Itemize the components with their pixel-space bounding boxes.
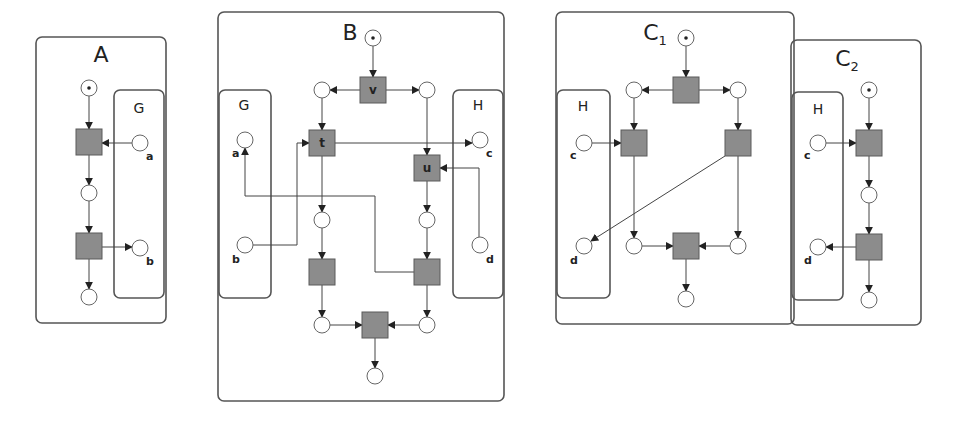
box-title: G xyxy=(239,97,250,113)
module-box-a: A xyxy=(36,37,166,323)
place-c2-d: d xyxy=(804,239,826,267)
place-circle-icon xyxy=(861,292,877,308)
module-box-c2: C2 xyxy=(791,40,921,325)
transition-b-t5 xyxy=(362,312,388,338)
module-box-c1-h: H xyxy=(557,90,610,298)
place-b-p3 xyxy=(314,212,330,228)
transition-square-icon xyxy=(673,233,699,259)
transition-c1-t2 xyxy=(725,130,751,156)
place-c2-p1 xyxy=(861,187,877,203)
place-label: c xyxy=(570,149,577,162)
arc-b-7 xyxy=(440,168,479,237)
place-label: d xyxy=(486,253,494,266)
arc-b-8 xyxy=(253,143,309,245)
place-b-d: d xyxy=(472,237,494,266)
module-box-c2-h: H xyxy=(792,92,843,300)
place-a-b: b xyxy=(132,240,154,268)
place-circle-icon xyxy=(367,368,383,384)
place-circle-icon xyxy=(810,135,826,151)
place-circle-icon xyxy=(419,82,435,98)
transition-square-icon xyxy=(414,259,440,285)
transition-square-icon xyxy=(76,233,102,259)
transition-c2-t1 xyxy=(856,130,882,156)
place-circle-icon xyxy=(730,82,746,98)
box-outline xyxy=(557,90,610,298)
place-circle-icon xyxy=(576,238,592,254)
place-circle-icon xyxy=(626,238,642,254)
place-c2-p2 xyxy=(861,292,877,308)
place-c1-p5 xyxy=(678,291,694,307)
box-title: H xyxy=(578,98,589,114)
transition-square-icon xyxy=(362,312,388,338)
place-circle-icon xyxy=(576,135,592,151)
token-dot-icon xyxy=(867,88,871,92)
transition-square-icon xyxy=(673,77,699,103)
box-outline xyxy=(114,90,164,298)
arcs xyxy=(89,46,869,368)
place-c1-p4 xyxy=(730,238,746,254)
box-title: B xyxy=(342,20,357,45)
box-title: G xyxy=(134,100,145,116)
module-box-b: B xyxy=(218,12,504,401)
token-dot-icon xyxy=(87,86,91,90)
box-title: H xyxy=(813,101,824,117)
token-dot-icon xyxy=(371,36,375,40)
transition-b-t4 xyxy=(414,259,440,285)
transition-b-u: u xyxy=(414,155,440,181)
place-c2-p0 xyxy=(861,82,877,98)
box-title: C2 xyxy=(835,46,859,74)
arc-c1-7 xyxy=(591,156,725,241)
box-outline xyxy=(791,40,921,325)
place-circle-icon xyxy=(314,317,330,333)
place-b-p6 xyxy=(419,317,435,333)
place-c1-pr xyxy=(730,82,746,98)
transition-square-icon xyxy=(309,259,335,285)
place-label: b xyxy=(232,253,240,266)
place-circle-icon xyxy=(237,237,253,253)
box-title: H xyxy=(473,97,484,113)
place-label: d xyxy=(570,254,578,267)
transition-label: t xyxy=(319,136,325,150)
place-circle-icon xyxy=(861,187,877,203)
transition-b-t: t xyxy=(309,130,335,156)
transition-square-icon xyxy=(621,130,647,156)
place-c1-pl xyxy=(626,82,642,98)
place-circle-icon xyxy=(626,82,642,98)
transition-square-icon xyxy=(76,129,102,155)
place-b-a: a xyxy=(232,132,253,160)
transition-c1-t0 xyxy=(673,77,699,103)
transition-square-icon xyxy=(856,234,882,260)
box-outline xyxy=(453,90,503,298)
place-circle-icon xyxy=(419,212,435,228)
transition-c1-t3 xyxy=(673,233,699,259)
place-circle-icon xyxy=(730,238,746,254)
place-b-c: c xyxy=(472,132,493,160)
place-circle-icon xyxy=(237,132,253,148)
petri-net-diagram: AGBGHC1HC2H abacbdcdcd vtu xyxy=(0,0,956,425)
transition-square-icon xyxy=(856,130,882,156)
transition-c2-t2 xyxy=(856,234,882,260)
place-b-b: b xyxy=(232,237,253,266)
transition-c1-t1 xyxy=(621,130,647,156)
place-circle-icon xyxy=(472,237,488,253)
place-a-p1 xyxy=(81,185,97,201)
module-box-b-h: H xyxy=(453,90,503,298)
place-a-p0 xyxy=(81,80,97,96)
box-outline xyxy=(36,37,166,323)
place-c1-d: d xyxy=(570,238,592,267)
place-circle-icon xyxy=(314,212,330,228)
transition-square-icon xyxy=(725,130,751,156)
place-a-a: a xyxy=(132,135,153,163)
place-circle-icon xyxy=(678,291,694,307)
place-circle-icon xyxy=(472,132,488,148)
transition-label: u xyxy=(423,161,432,175)
box-title: C1 xyxy=(643,20,667,48)
transition-a-t1 xyxy=(76,129,102,155)
box-outline xyxy=(218,12,504,401)
box-subscript: 2 xyxy=(851,59,859,74)
place-circle-icon xyxy=(132,240,148,256)
place-b-p0 xyxy=(365,30,381,46)
place-circle-icon xyxy=(81,185,97,201)
place-b-p7 xyxy=(367,368,383,384)
place-b-pr xyxy=(419,82,435,98)
